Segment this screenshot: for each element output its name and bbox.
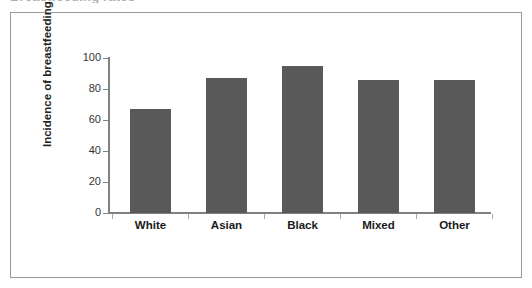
y-tick-label: 20 bbox=[55, 176, 101, 187]
x-tick-label-mixed: Mixed bbox=[339, 219, 419, 231]
y-tick-label: 40 bbox=[55, 145, 101, 156]
y-tick-mark bbox=[103, 120, 108, 121]
x-tick-label-black: Black bbox=[263, 219, 343, 231]
y-tick-mark bbox=[103, 213, 108, 214]
y-axis-title: Incidence of breastfeeding (%) bbox=[41, 0, 53, 147]
x-tick-label-other: Other bbox=[415, 219, 495, 231]
y-tick-mark bbox=[103, 151, 108, 152]
x-tick-label-asian: Asian bbox=[187, 219, 267, 231]
y-tick-label: 100 bbox=[55, 52, 101, 63]
figure-frame: Incidence of breastfeeding (%) 020406080… bbox=[10, 12, 522, 278]
y-tick-label: 0 bbox=[55, 207, 101, 218]
bar-white bbox=[130, 109, 171, 213]
y-tick-label: 80 bbox=[55, 83, 101, 94]
bar-asian bbox=[206, 78, 247, 213]
bar-other bbox=[434, 80, 475, 213]
cut-off-caption: Breastfeeding rates bbox=[10, 0, 310, 3]
y-axis-line bbox=[108, 57, 110, 214]
x-tick-label-white: White bbox=[111, 219, 191, 231]
bar-chart-plot-area: Incidence of breastfeeding (%) 020406080… bbox=[11, 13, 523, 279]
bar-mixed bbox=[358, 80, 399, 213]
y-tick-mark bbox=[103, 89, 108, 90]
y-tick-label: 60 bbox=[55, 114, 101, 125]
bar-black bbox=[282, 66, 323, 213]
y-tick-mark bbox=[103, 58, 108, 59]
y-tick-mark bbox=[103, 182, 108, 183]
